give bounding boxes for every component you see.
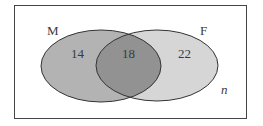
set-f-label: F <box>200 24 207 37</box>
universe-label: n <box>221 83 228 96</box>
intersection-value: 18 <box>122 47 135 60</box>
set-m-label: M <box>47 24 59 37</box>
venn-diagram <box>0 0 263 126</box>
f-only-value: 22 <box>178 47 191 60</box>
m-only-value: 14 <box>71 47 84 60</box>
